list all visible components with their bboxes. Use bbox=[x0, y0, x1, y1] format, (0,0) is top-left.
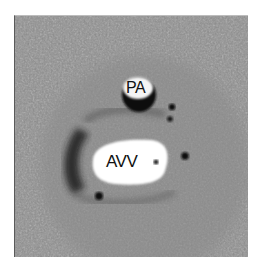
avv-label: AVV bbox=[106, 152, 137, 172]
pa-label: PA bbox=[126, 79, 145, 97]
mri-image bbox=[15, 16, 248, 257]
mri-image-frame: PA AVV bbox=[14, 15, 248, 257]
